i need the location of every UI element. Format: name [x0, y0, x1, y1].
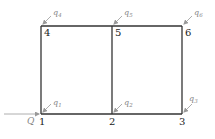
- node-3-label: 3: [179, 116, 185, 127]
- node-2-label: 2: [109, 116, 115, 127]
- nodal-flow-labels: q1 q2 q3 q4 q5 q6: [53, 8, 203, 108]
- q4-arrow-icon: [43, 16, 51, 24]
- frame: [41, 26, 182, 114]
- node-5-label: 5: [115, 27, 121, 38]
- node-4-label: 4: [44, 27, 50, 38]
- q5-arrow-icon: [114, 16, 122, 24]
- q2-label: q2: [124, 98, 133, 108]
- frame-network-diagram: Q q1 q2 q3 q4 q5 q6 1 2 3 4 5 6: [0, 0, 215, 139]
- inflow-q: Q: [4, 114, 39, 126]
- q1-label: q1: [53, 98, 62, 108]
- inflow-label: Q: [27, 116, 35, 126]
- q3-arrow-icon: [184, 104, 192, 112]
- node-6-label: 6: [185, 27, 191, 38]
- q4-label: q4: [53, 8, 62, 18]
- q1-arrow-icon: [43, 104, 51, 112]
- q6-label: q6: [194, 8, 203, 18]
- q2-arrow-icon: [114, 104, 122, 112]
- q5-label: q5: [124, 8, 133, 18]
- q3-label: q3: [189, 94, 198, 104]
- node-1-label: 1: [39, 116, 45, 127]
- node-labels: 1 2 3 4 5 6: [39, 27, 191, 127]
- q6-arrow-icon: [184, 16, 192, 24]
